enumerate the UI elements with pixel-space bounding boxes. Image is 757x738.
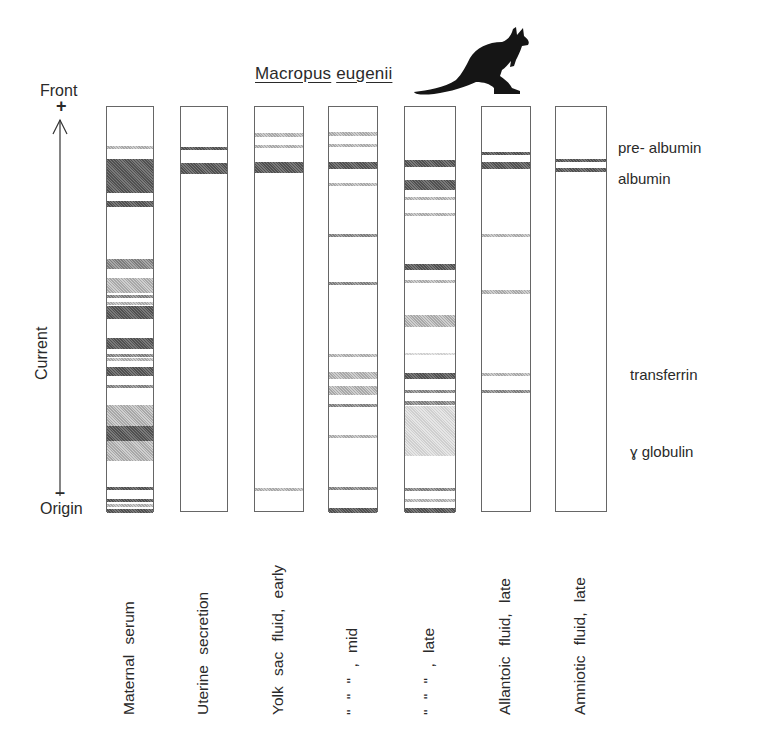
protein-band [107, 385, 153, 388]
protein-band [107, 338, 153, 349]
protein-band [329, 508, 377, 513]
protein-band [107, 426, 153, 441]
protein-band [107, 358, 153, 361]
protein-band [405, 406, 455, 456]
protein-band [405, 488, 455, 491]
current-axis-label: Current [33, 327, 51, 380]
lane-label-text: Uterine secretion [194, 592, 212, 715]
lane-label-text: Allantoic fluid, late [496, 578, 514, 715]
protein-band [405, 160, 455, 167]
protein-band [405, 264, 455, 270]
protein-band [181, 163, 227, 174]
species-name: eugenii [336, 64, 392, 83]
origin-label: Origin [40, 500, 83, 518]
lane-label-5: " " " , late [420, 525, 444, 715]
protein-band [107, 441, 153, 461]
protein-band [405, 213, 455, 216]
albumin-label: albumin [618, 170, 671, 187]
protein-band [107, 354, 153, 357]
protein-band [255, 133, 303, 137]
current-arrow-icon [52, 118, 68, 498]
protein-band [107, 504, 153, 507]
protein-band [107, 367, 153, 376]
lane-3 [254, 106, 304, 512]
protein-band [329, 132, 377, 136]
protein-band [329, 162, 377, 169]
protein-band [405, 315, 455, 327]
protein-band [107, 306, 153, 319]
lane-label-text: Yolk sac fluid, early [269, 565, 287, 715]
protein-band [405, 508, 455, 513]
gamma-globulin-label: ɣ globulin [630, 443, 693, 460]
lane-label-text: " " " , late [420, 628, 438, 715]
genus-name: Macropus [255, 64, 331, 83]
pre-albumin-label: pre- albumin [618, 139, 701, 156]
protein-band [255, 145, 303, 148]
lane-label-text: Maternal serum [120, 601, 138, 715]
protein-band [107, 259, 153, 269]
lane-2 [180, 106, 228, 512]
protein-band [107, 201, 153, 207]
lane-label-3: Yolk sac fluid, early [269, 525, 293, 715]
protein-band [482, 162, 530, 169]
protein-band [255, 162, 303, 173]
protein-band [329, 183, 377, 186]
protein-band [482, 390, 530, 393]
protein-band [556, 159, 606, 162]
protein-band [107, 159, 153, 193]
lane-4 [328, 106, 378, 512]
protein-band [107, 499, 153, 502]
lane-1 [106, 106, 154, 512]
lane-label-text: " " " , mid [343, 628, 361, 715]
protein-band [405, 373, 455, 379]
lane-label-7: Amniotic fluid, late [571, 525, 595, 715]
protein-band [405, 353, 455, 355]
protein-band [482, 234, 530, 237]
protein-band [405, 180, 455, 190]
protein-band [329, 487, 377, 490]
protein-band [556, 168, 606, 172]
positive-sign: + [56, 96, 67, 117]
current-axis-label-wrap: Current [33, 320, 57, 390]
protein-band [255, 488, 303, 491]
protein-band [329, 372, 377, 379]
protein-band [107, 487, 153, 490]
protein-band [405, 197, 455, 200]
protein-band [405, 390, 455, 393]
protein-band [107, 295, 153, 298]
lane-label-6: Allantoic fluid, late [496, 525, 520, 715]
protein-band [107, 405, 153, 426]
protein-band [405, 280, 455, 283]
lane-5 [404, 106, 456, 512]
kangaroo-icon [410, 26, 532, 98]
lane-label-1: Maternal serum [120, 525, 144, 715]
lane-label-4: " " " , mid [343, 525, 367, 715]
protein-band [405, 499, 455, 502]
protein-band [107, 146, 153, 149]
protein-band [329, 282, 377, 285]
protein-band [482, 373, 530, 376]
protein-band [329, 435, 377, 438]
protein-band [181, 147, 227, 150]
transferrin-label: transferrin [630, 366, 698, 383]
species-title: Macropus eugenii [255, 64, 392, 84]
protein-band [107, 278, 153, 293]
protein-band [329, 354, 377, 357]
protein-band [329, 234, 377, 237]
lane-label-text: Amniotic fluid, late [571, 577, 589, 715]
protein-band [482, 152, 530, 155]
lane-6 [481, 106, 531, 512]
lane-label-2: Uterine secretion [194, 525, 218, 715]
protein-band [107, 509, 153, 513]
protein-band [482, 290, 530, 294]
protein-band [329, 144, 377, 147]
protein-band [107, 302, 153, 305]
lane-7 [555, 106, 607, 512]
protein-band [329, 386, 377, 395]
protein-band [329, 404, 377, 407]
protein-band [405, 401, 455, 405]
